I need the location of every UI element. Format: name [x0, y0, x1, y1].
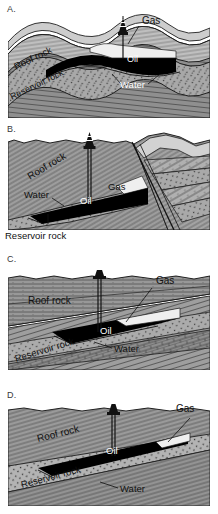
label-gas-c: Gas: [156, 275, 174, 286]
label-water-c: Water: [114, 343, 139, 354]
label-gas-d: Gas: [176, 404, 194, 414]
label-oil-b: Oil: [80, 195, 92, 206]
label-oil-c: Oil: [100, 325, 112, 336]
label-reservoir-rock-b: Reservoir rock: [5, 230, 66, 241]
label-water-d: Water: [120, 483, 145, 494]
panel-c-letter: C.: [7, 254, 16, 264]
label-gas-b: Gas: [108, 181, 126, 192]
panel-a-letter: A.: [7, 4, 16, 14]
label-oil-a: Oil: [127, 54, 138, 64]
panel-b-cross-section: Gas Oil Water Roof rock: [8, 132, 210, 230]
panel-a-anticline-trap: A.: [0, 0, 218, 120]
label-oil-d: Oil: [106, 445, 118, 456]
label-gas-a: Gas: [142, 15, 160, 26]
label-water-b: Water: [24, 189, 49, 200]
panel-d-stratigraphic-trap: D.: [0, 380, 218, 514]
panel-d-letter: D.: [7, 390, 16, 400]
panel-a-cross-section: Gas Oil Water Roof rock Reservoir rock: [8, 14, 210, 118]
label-water-a: Water: [120, 79, 145, 90]
panel-c-cross-section: Gas Oil Water Roof rock Reservoir rock: [8, 270, 210, 370]
panel-c-unconformity-trap: C.: [0, 250, 218, 380]
label-roof-rock-c: Roof rock: [28, 295, 72, 306]
panel-b-fault-trap: B.: [0, 120, 218, 250]
panel-d-cross-section: Gas Oil Water Roof rock Reservoir rock: [8, 404, 210, 506]
